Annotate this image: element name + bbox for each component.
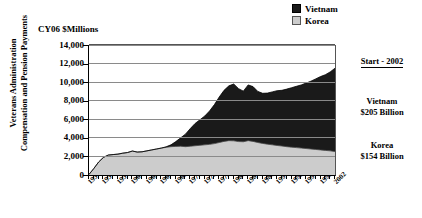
annotation-start-year: Start - 2002 (344, 56, 420, 67)
y-axis-title-line1: Veterans Administration (8, 0, 19, 178)
x-tick-mark (136, 176, 137, 179)
annotation-vietnam-name: Vietnam (344, 96, 420, 107)
y-tick-label: 12,000 (38, 59, 84, 68)
legend-swatch-korea-icon (292, 16, 301, 25)
annotation-start-year-text: Start - 2002 (361, 56, 404, 68)
x-tick-mark (271, 176, 272, 179)
x-tick-mark (252, 176, 253, 179)
x-tick-mark (310, 176, 311, 179)
x-tick-mark (286, 176, 287, 179)
legend-item-korea: Korea (292, 15, 382, 26)
x-tick-mark (199, 176, 200, 179)
x-tick-mark (209, 176, 210, 179)
x-tick-mark (266, 176, 267, 179)
legend-label-korea: Korea (305, 16, 329, 26)
gridline (89, 137, 335, 138)
y-tick-label: 0 (38, 171, 84, 180)
x-tick-mark (257, 176, 258, 179)
y-tick-label: 10,000 (38, 78, 84, 87)
x-tick-mark (93, 176, 94, 179)
gridline (89, 82, 335, 83)
gridline (89, 119, 335, 120)
gridline (89, 156, 335, 157)
x-tick-mark (156, 176, 157, 179)
annotation-vietnam-total: Vietnam $205 Billion (344, 96, 420, 118)
x-tick-mark (180, 176, 181, 179)
x-tick-mark (170, 176, 171, 179)
legend-item-vietnam: Vietnam (292, 3, 382, 14)
plot-area (88, 45, 336, 176)
x-tick-mark (300, 176, 301, 179)
annotation-korea-name: Korea (344, 140, 420, 151)
y-tick-label: 14,000 (38, 41, 84, 50)
x-tick-mark (141, 176, 142, 179)
x-tick-mark (184, 176, 185, 179)
gridline (89, 45, 335, 46)
annotation-korea-amount: $154 Billion (344, 151, 420, 162)
chart-root: Vietnam Korea Veterans Administration Co… (0, 0, 422, 218)
x-tick-mark (112, 176, 113, 179)
y-tick-label: 6,000 (38, 115, 84, 124)
legend-label-vietnam: Vietnam (305, 4, 338, 14)
x-tick-mark (122, 176, 123, 179)
x-tick-mark (223, 176, 224, 179)
x-tick-mark (127, 176, 128, 179)
units-caption: CY06 $Millions (38, 24, 98, 34)
y-tick-label: 2,000 (38, 152, 84, 161)
y-tick-label: 4,000 (38, 133, 84, 142)
y-tick-label: 8,000 (38, 96, 84, 105)
x-tick-mark (165, 176, 166, 179)
legend-swatch-vietnam-icon (292, 4, 301, 13)
y-axis-title: Veterans Administration Compensation and… (8, 0, 38, 178)
annotation-korea-total: Korea $154 Billion (344, 140, 420, 162)
x-tick-mark (324, 176, 325, 179)
x-tick-mark (213, 176, 214, 179)
gridline (89, 100, 335, 101)
x-tick-mark (194, 176, 195, 179)
x-tick-mark (151, 176, 152, 179)
x-tick-mark (107, 176, 108, 179)
x-tick-mark (238, 176, 239, 179)
x-tick-mark (228, 176, 229, 179)
annotation-vietnam-amount: $205 Billion (344, 107, 420, 118)
x-tick-mark (98, 176, 99, 179)
x-tick-mark (295, 176, 296, 179)
x-tick-mark (315, 176, 316, 179)
x-tick-mark (281, 176, 282, 179)
x-tick-mark (242, 176, 243, 179)
plot-inner (89, 45, 335, 175)
gridline (89, 63, 335, 64)
y-axis-title-line2: Compensation and Pension Payments (19, 0, 30, 178)
chart-legend: Vietnam Korea (292, 3, 382, 27)
x-tick-mark (329, 176, 330, 179)
